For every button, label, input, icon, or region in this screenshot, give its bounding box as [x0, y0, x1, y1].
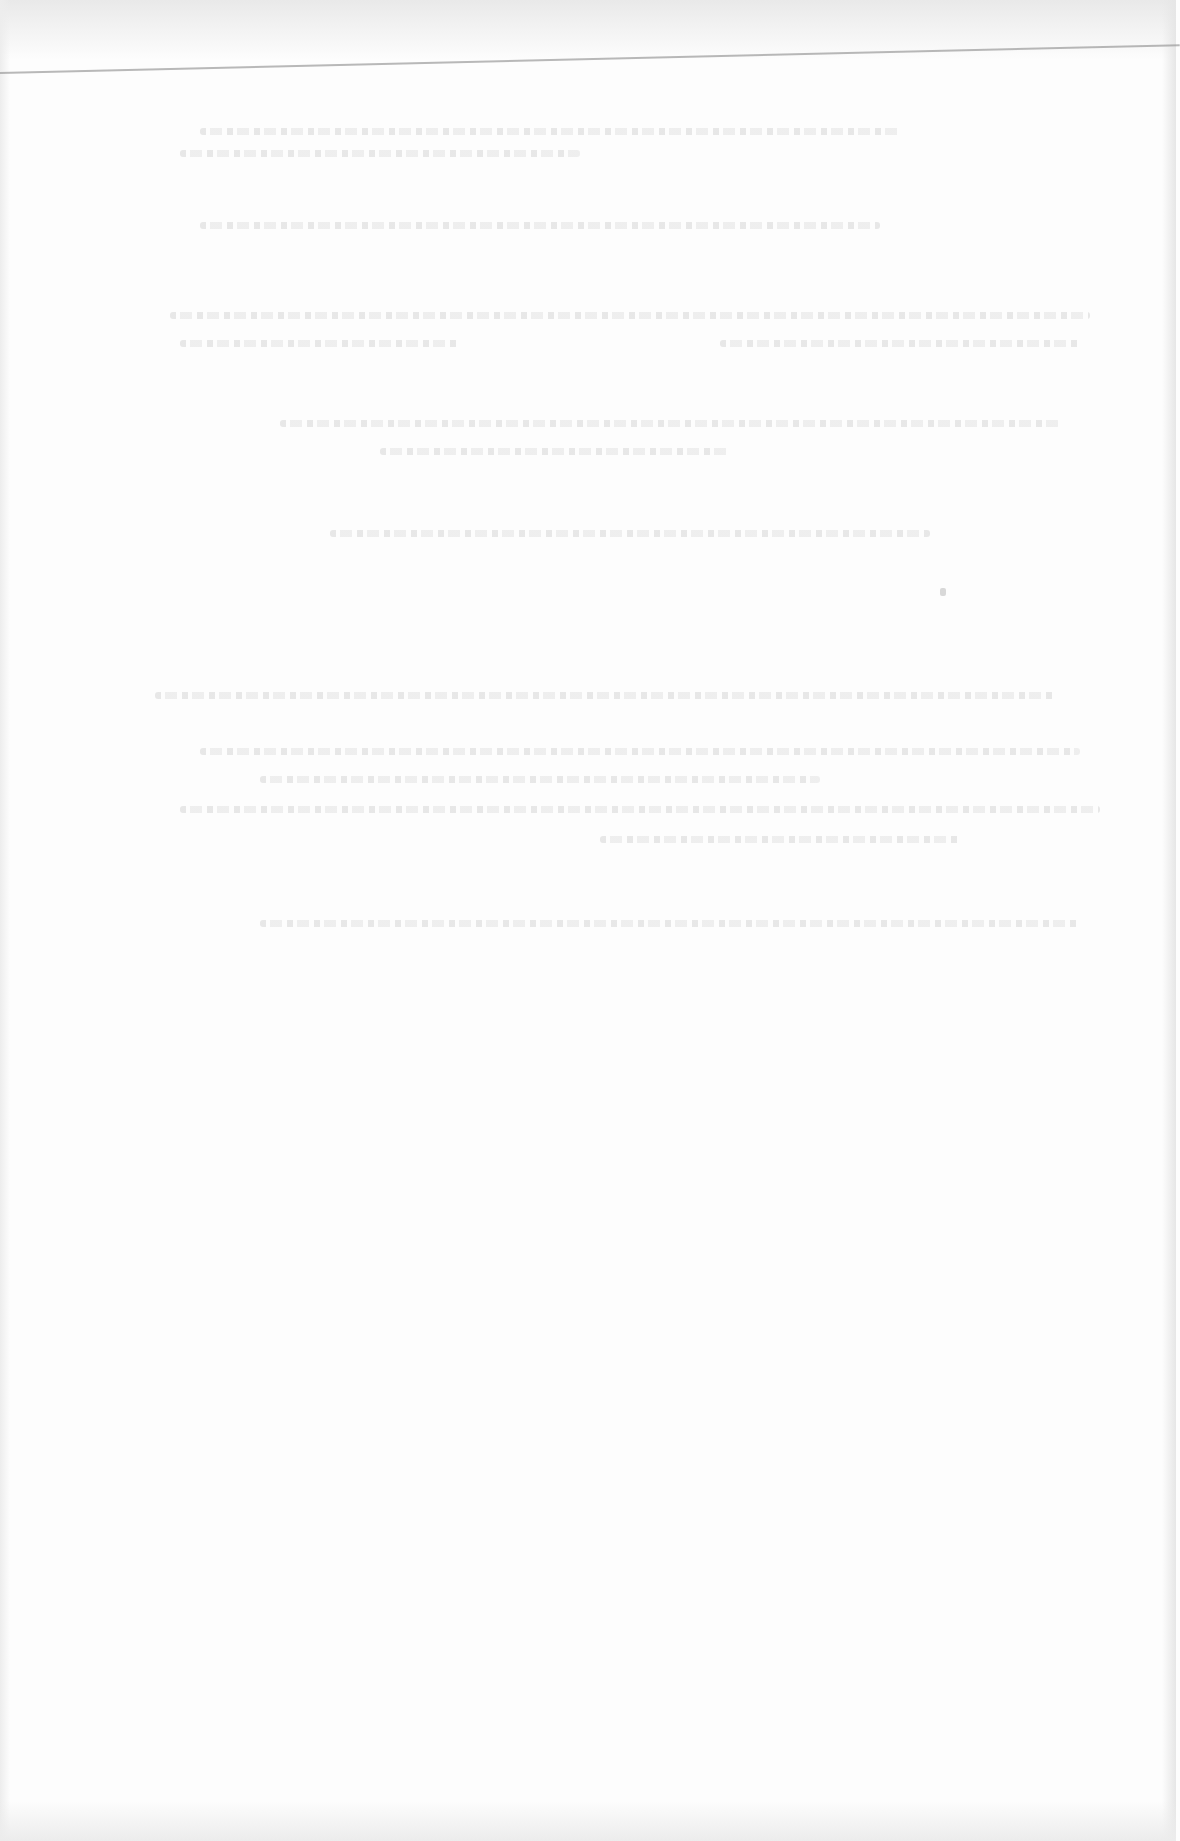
faded-text-line: [180, 150, 580, 157]
faded-text-line: [330, 530, 930, 537]
faded-text-line: [170, 312, 1090, 319]
faded-text-line: [200, 128, 900, 135]
scan-edge-left: [0, 0, 10, 1841]
faded-text-line: [155, 692, 1055, 699]
faded-text-line: [200, 222, 880, 229]
faded-text-line: [260, 920, 1080, 927]
faded-text-line: [180, 806, 1100, 813]
faded-text-line: [380, 448, 730, 455]
faded-text-line: [720, 340, 1080, 347]
scan-edge-top: [0, 0, 1176, 60]
faded-text-line: [600, 836, 960, 843]
scan-edge-right: [1162, 0, 1176, 1841]
scan-edge-bottom: [0, 1801, 1176, 1841]
faded-text-line: [180, 340, 460, 347]
faded-text-line: [260, 776, 820, 783]
faded-text-line: [280, 420, 1060, 427]
faded-text-line: [200, 748, 1080, 755]
footnote-marker: [940, 588, 946, 596]
